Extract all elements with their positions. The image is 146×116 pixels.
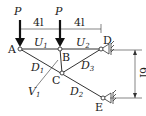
dim-label-height: 6l bbox=[137, 67, 146, 78]
load-arrow-b bbox=[55, 20, 65, 47]
member-label-u2: U2 bbox=[76, 36, 90, 50]
node-label-c: C bbox=[52, 74, 60, 87]
node-d bbox=[99, 47, 103, 51]
node-label-b: B bbox=[62, 51, 70, 64]
member-label-d3: D3 bbox=[80, 59, 95, 73]
node-label-e: E bbox=[95, 101, 103, 114]
dim-label-ab: 4l bbox=[33, 16, 44, 29]
load-label-b: P bbox=[54, 5, 63, 18]
dim-label-bd: 4l bbox=[74, 16, 85, 29]
member-label-d2: D2 bbox=[69, 85, 84, 99]
member-label-v1: V1 bbox=[28, 85, 40, 99]
node-label-d: D bbox=[103, 34, 112, 47]
node-label-a: A bbox=[7, 43, 17, 56]
truss-diagram: P P 4l 4l 6l A B C D E U1 U2 D1 D3 D2 V1 bbox=[0, 0, 146, 116]
member-label-u1: U1 bbox=[34, 36, 48, 50]
load-arrow-a bbox=[15, 20, 25, 47]
member-label-d1: D1 bbox=[30, 61, 44, 75]
node-c bbox=[60, 71, 64, 75]
node-e bbox=[101, 96, 105, 100]
load-label-a: P bbox=[13, 5, 22, 18]
node-a bbox=[18, 47, 22, 51]
